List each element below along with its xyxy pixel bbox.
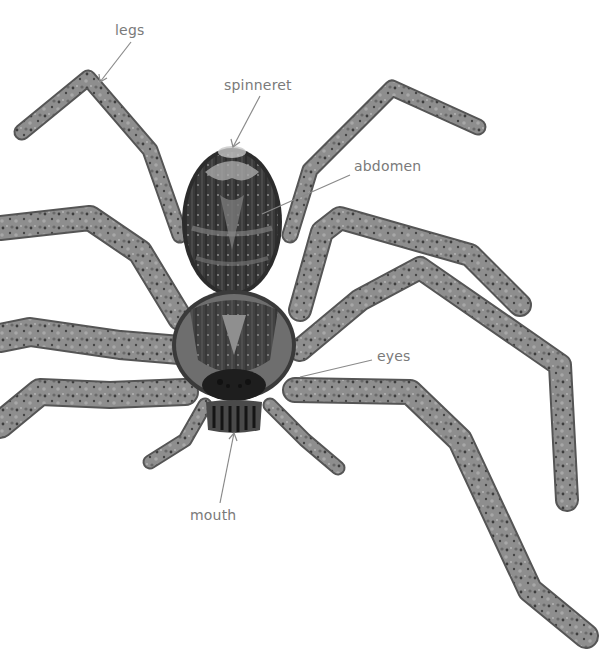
leg-left-2 xyxy=(0,218,180,318)
leg-right-4 xyxy=(295,390,586,636)
label-legs: legs xyxy=(115,22,144,38)
pointer-legs xyxy=(100,42,131,82)
pedipalp-right xyxy=(270,405,338,468)
spider-illustration xyxy=(0,0,600,657)
abdomen-shape xyxy=(182,146,282,296)
spinneret-tip xyxy=(218,146,246,158)
label-abdomen: abdomen xyxy=(354,158,421,174)
label-mouth: mouth xyxy=(190,507,236,523)
spider-diagram: legs spinneret abdomen eyes mouth xyxy=(0,0,600,657)
label-eyes: eyes xyxy=(377,348,411,364)
leg-left-4 xyxy=(0,392,185,425)
pointer-spinneret xyxy=(233,96,260,147)
pointer-eyes xyxy=(300,360,372,377)
pedipalp-left xyxy=(150,405,205,462)
leg-left-3 xyxy=(0,332,180,350)
mouth-shape xyxy=(206,400,262,433)
pointer-mouth xyxy=(220,433,234,503)
label-spinneret: spinneret xyxy=(224,77,292,93)
